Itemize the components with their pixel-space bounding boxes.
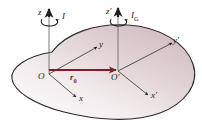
x-axis-label: x xyxy=(79,94,83,103)
y-prime-axis-label: y′ xyxy=(173,36,179,45)
position-vector-label: r0 xyxy=(70,73,77,84)
inertia-IG-subscript: G xyxy=(134,15,139,22)
origin-O-label: O xyxy=(38,72,45,81)
position-vector-subscript: 0 xyxy=(74,77,77,84)
z-prime-axis-label: z′ xyxy=(106,7,111,16)
rigid-body-axes-diagram: z I z′ IG y y′ O O′ r0 x x′ xyxy=(0,0,202,126)
inertia-I-label: I xyxy=(62,12,65,21)
z-axis-label: z xyxy=(38,8,42,17)
x-prime-axis-label: x′ xyxy=(151,91,157,100)
origin-O-prime-label: O′ xyxy=(111,73,119,82)
inertia-IG-label: IG xyxy=(131,11,139,22)
y-axis-label: y xyxy=(99,40,103,49)
diagram-canvas xyxy=(0,0,202,126)
